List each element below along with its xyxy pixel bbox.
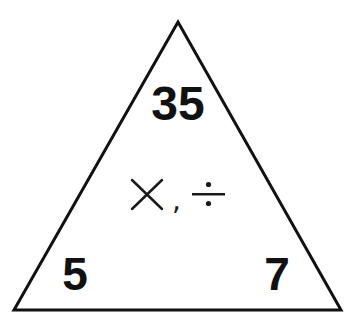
top-value: 35 <box>151 77 204 130</box>
divide-icon <box>192 182 225 206</box>
multiply-icon <box>132 180 162 209</box>
bottom-left-value: 5 <box>62 248 88 300</box>
fact-triangle-diagram: 35 , 5 7 <box>0 0 344 328</box>
bottom-right-value: 7 <box>264 248 290 300</box>
operations-separator: , <box>172 184 181 217</box>
operations-label: , <box>132 180 225 217</box>
